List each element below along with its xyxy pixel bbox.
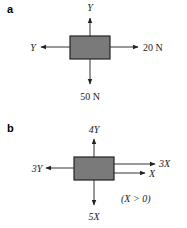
force-label-right-upper: 3X bbox=[158, 158, 171, 169]
body-block bbox=[70, 36, 110, 59]
force-label-up: Y bbox=[87, 2, 94, 13]
force-label-right: 20 N bbox=[143, 42, 163, 53]
force-label-right-lower: X bbox=[148, 168, 156, 179]
panel-a-label: a bbox=[7, 3, 14, 15]
force-label-down: 5X bbox=[88, 211, 100, 222]
force-label-left: Y bbox=[30, 42, 37, 53]
panel-b: b 4Y 3Y 3X X 5X (X > 0) bbox=[7, 122, 171, 222]
condition-label: (X > 0) bbox=[121, 193, 151, 205]
body-block bbox=[74, 157, 114, 180]
panel-b-label: b bbox=[7, 122, 14, 134]
force-label-left: 3Y bbox=[31, 163, 44, 174]
panel-a: a Y Y 20 N 50 N bbox=[7, 2, 163, 102]
force-label-down: 50 N bbox=[80, 91, 100, 102]
free-body-diagrams: a Y Y 20 N 50 N b 4Y 3Y 3X X 5X (X > 0) bbox=[0, 0, 187, 228]
force-label-up: 4Y bbox=[89, 124, 101, 135]
